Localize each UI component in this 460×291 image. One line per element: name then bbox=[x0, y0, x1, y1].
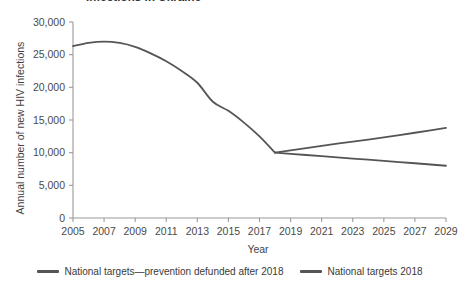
x-tick-label: 2007 bbox=[92, 225, 116, 237]
legend-label-defunded: National targets—prevention defunded aft… bbox=[64, 266, 283, 277]
legend-swatch-targets-2018 bbox=[300, 270, 322, 273]
y-tick-label: 25,000 bbox=[33, 48, 65, 60]
y-tick-label: 20,000 bbox=[33, 81, 65, 93]
series-line-projection-1 bbox=[275, 153, 446, 166]
x-tick-label: 2021 bbox=[310, 225, 334, 237]
legend-item-defunded[interactable]: National targets—prevention defunded aft… bbox=[37, 266, 283, 277]
x-axis-title: Year bbox=[73, 243, 443, 255]
series-line-historical bbox=[73, 42, 275, 153]
y-axis: 05,00010,00015,00020,00025,00030,000 bbox=[33, 16, 73, 224]
x-tick-label: 2027 bbox=[403, 225, 427, 237]
x-tick-label: 2023 bbox=[341, 225, 365, 237]
chart-plot-area: 05,00010,00015,00020,00025,00030,000 200… bbox=[0, 0, 460, 262]
legend-item-targets-2018[interactable]: National targets 2018 bbox=[300, 266, 422, 277]
chart-series-lines bbox=[73, 42, 446, 166]
y-tick-label: 15,000 bbox=[33, 114, 65, 126]
x-tick-label: 2011 bbox=[155, 225, 178, 237]
x-tick-label: 2019 bbox=[279, 225, 303, 237]
chart-legend: National targets—prevention defunded aft… bbox=[0, 266, 460, 277]
x-tick-label: 2017 bbox=[248, 225, 272, 237]
chart-svg: 05,00010,00015,00020,00025,00030,000 200… bbox=[0, 0, 460, 262]
x-tick-label: 2025 bbox=[372, 225, 396, 237]
y-axis-title: Annual number of new HIV infections bbox=[14, 21, 30, 236]
legend-label-targets-2018: National targets 2018 bbox=[327, 266, 422, 277]
legend-swatch-defunded bbox=[37, 270, 59, 273]
y-tick-label: 30,000 bbox=[33, 16, 65, 28]
x-tick-label: 2009 bbox=[123, 225, 147, 237]
series-line-projection-0 bbox=[275, 128, 446, 153]
y-axis-ticks: 05,00010,00015,00020,00025,00030,000 bbox=[33, 16, 73, 224]
y-tick-label: 5,000 bbox=[39, 179, 65, 191]
x-tick-label: 2015 bbox=[217, 225, 241, 237]
x-tick-label: 2005 bbox=[61, 225, 85, 237]
x-axis-ticks: 2005200720092011201320152017201920212023… bbox=[61, 218, 458, 237]
y-tick-label: 0 bbox=[59, 212, 65, 224]
x-axis: 2005200720092011201320152017201920212023… bbox=[61, 218, 458, 237]
x-tick-label: 2013 bbox=[186, 225, 210, 237]
y-tick-label: 10,000 bbox=[33, 146, 65, 158]
x-tick-label: 2029 bbox=[434, 225, 458, 237]
